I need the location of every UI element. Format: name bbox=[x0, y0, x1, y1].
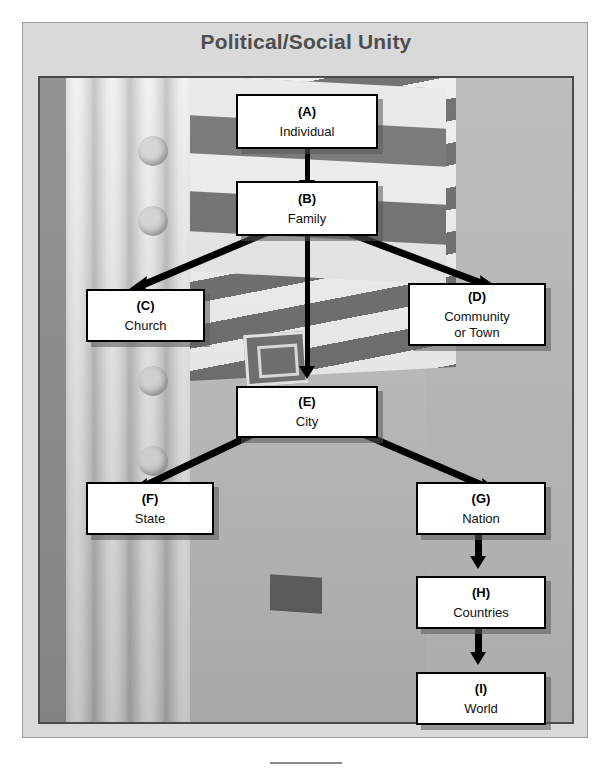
node-h-label: Countries bbox=[453, 605, 509, 621]
node-c-church[interactable]: (C) Church bbox=[86, 289, 205, 342]
node-a-individual[interactable]: (A) Individual bbox=[236, 94, 378, 149]
node-e-key: (E) bbox=[298, 394, 315, 410]
node-b-key: (B) bbox=[298, 191, 316, 207]
node-e-label: City bbox=[296, 414, 318, 430]
node-b-family[interactable]: (B) Family bbox=[236, 181, 378, 236]
node-i-world[interactable]: (I) World bbox=[416, 672, 546, 725]
node-f-state[interactable]: (F) State bbox=[86, 482, 214, 535]
node-i-key: (I) bbox=[475, 681, 487, 697]
node-f-label: State bbox=[135, 511, 165, 527]
footer-divider bbox=[270, 762, 342, 764]
node-c-key: (C) bbox=[136, 298, 154, 314]
node-g-key: (G) bbox=[472, 491, 491, 507]
arrow-a-to-b-shaft bbox=[305, 149, 310, 183]
node-a-key: (A) bbox=[298, 104, 316, 120]
node-e-city[interactable]: (E) City bbox=[236, 386, 378, 438]
node-d-community-or-town[interactable]: (D) Community or Town bbox=[408, 283, 546, 346]
node-b-label: Family bbox=[288, 211, 326, 227]
arrow-g-to-h-head bbox=[470, 556, 486, 569]
poster-card: Political/Social Unity ★★ ★★ ★★ ★ ★★ ★★ … bbox=[22, 22, 588, 738]
page-title: Political/Social Unity bbox=[23, 30, 589, 54]
node-a-label: Individual bbox=[280, 124, 335, 140]
node-d-label-line2: or Town bbox=[454, 325, 499, 341]
node-g-nation[interactable]: (G) Nation bbox=[416, 482, 546, 535]
node-h-countries[interactable]: (H) Countries bbox=[416, 576, 546, 629]
arrow-h-to-i-head bbox=[470, 652, 486, 665]
node-d-label-line1: Community bbox=[444, 309, 510, 325]
node-g-label: Nation bbox=[462, 511, 500, 527]
node-d-key: (D) bbox=[468, 289, 486, 305]
node-f-key: (F) bbox=[142, 491, 159, 507]
node-i-label: World bbox=[464, 701, 498, 717]
node-h-key: (H) bbox=[472, 585, 490, 601]
node-c-label: Church bbox=[125, 318, 167, 334]
arrow-b-to-e-head bbox=[299, 366, 315, 379]
arrow-b-to-e-shaft bbox=[305, 235, 310, 369]
